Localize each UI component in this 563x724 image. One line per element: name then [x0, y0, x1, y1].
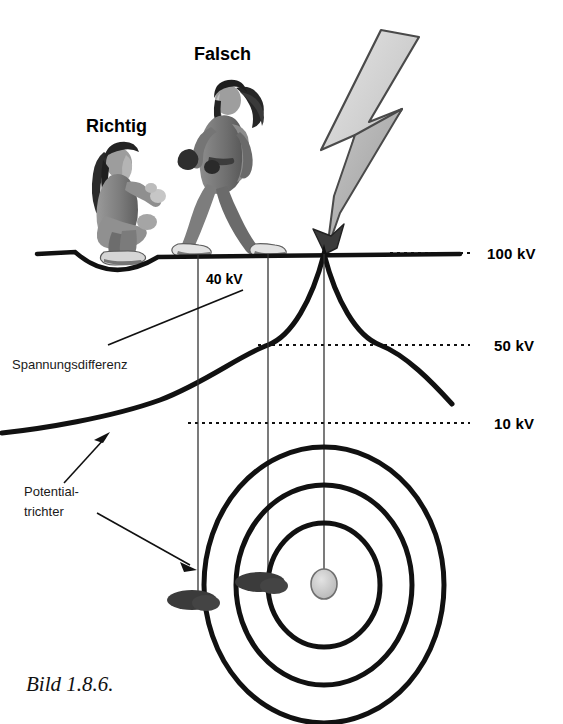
label-40kv: 40 kV	[206, 271, 243, 287]
leader-potentialtrichter	[97, 513, 190, 565]
figure-canvas: Falsch Richtig 40 kV Spannungsdifferenz …	[0, 0, 563, 724]
ground-line	[37, 252, 460, 270]
person-walking-wrong	[172, 80, 286, 258]
label-spannungsdifferenz: Spannungsdifferenz	[12, 357, 127, 372]
footprint-marks	[167, 569, 337, 611]
lightning-bolt-icon	[313, 30, 419, 254]
arrowhead-spannungsdifferenz	[94, 432, 110, 443]
label-100kv: 100 kV	[487, 245, 536, 262]
leader-spannungsdifferenz	[64, 438, 105, 483]
label-50kv: 50 kV	[494, 337, 534, 354]
label-falsch: Falsch	[194, 44, 251, 65]
footprint-front-toe	[260, 578, 288, 594]
strike-point-node	[311, 569, 337, 599]
person-crouching-correct	[92, 142, 166, 265]
leader-40kv	[108, 290, 243, 345]
label-potentialtrichter-line2: trichter	[24, 504, 64, 519]
figure-caption: Bild 1.8.6.	[26, 672, 114, 697]
label-richtig: Richtig	[86, 116, 147, 137]
label-potentialtrichter-line1: Potential-	[24, 484, 79, 499]
footprint-rear-toe	[192, 595, 220, 611]
label-10kv: 10 kV	[494, 415, 534, 432]
